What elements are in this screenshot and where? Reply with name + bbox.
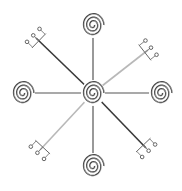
prong-knob-icon xyxy=(149,46,153,50)
spiral-icon-center xyxy=(81,80,105,106)
prong-knob-icon xyxy=(42,157,46,161)
prong-sw xyxy=(45,153,49,157)
prong-ne xyxy=(150,56,155,60)
prong-ne xyxy=(145,49,150,53)
spiral-icon-bottom xyxy=(81,153,105,179)
prong-nw xyxy=(41,30,45,34)
spiral-icon-left xyxy=(11,80,35,106)
sigil-canvas xyxy=(0,0,182,191)
prong-knob-icon xyxy=(29,145,33,149)
prong-knob-icon xyxy=(155,53,159,57)
prong-knob-icon xyxy=(25,40,29,44)
prong-se xyxy=(143,145,147,149)
prong-knob-icon xyxy=(36,151,40,155)
prong-knob-icon xyxy=(153,143,157,147)
prong-sw xyxy=(39,147,43,151)
prong-nw xyxy=(28,43,32,47)
prong-knob-icon xyxy=(140,155,144,159)
prong-knob-icon xyxy=(38,27,42,31)
prong-nw xyxy=(35,37,39,41)
prong-knob-icon xyxy=(147,149,151,153)
prong-ne xyxy=(139,42,144,46)
prong-se xyxy=(137,151,141,155)
prong-sw xyxy=(32,141,36,145)
prong-knob-icon xyxy=(31,34,35,38)
spiral-icon-top xyxy=(81,12,105,38)
sigil-diagram: Eight-armed spiral sigil xyxy=(0,0,182,191)
prong-se xyxy=(150,139,154,143)
spiral-icon-right xyxy=(149,80,173,106)
prong-knob-icon xyxy=(144,39,148,43)
